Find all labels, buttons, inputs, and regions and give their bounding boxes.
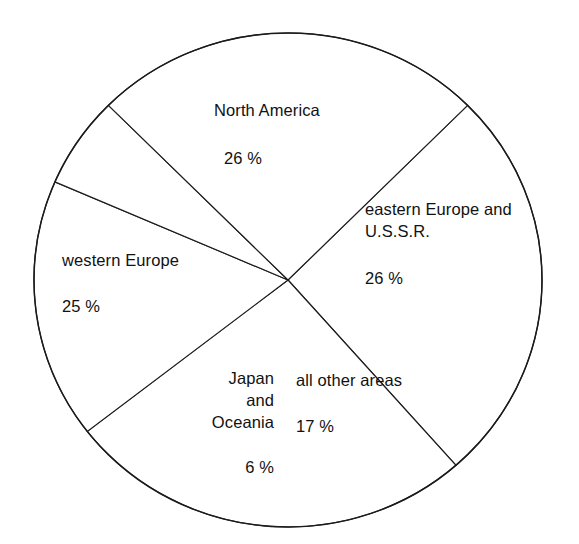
slice-label-japan-and-oceania: Japan and Oceania (186, 368, 274, 433)
slice-label-north-america: North America (214, 100, 320, 122)
slice-label-all-other-areas: all other areas (296, 370, 402, 392)
slice-value-western-europe: 25 % (62, 296, 100, 317)
pie-chart: North America 26 % eastern Europe and U.… (0, 0, 579, 544)
slice-label-western-europe: western Europe (62, 250, 179, 272)
pie-chart-svg (0, 0, 579, 544)
slice-label-eastern-europe-ussr: eastern Europe and U.S.S.R. (365, 199, 512, 243)
slice-value-north-america: 26 % (224, 148, 262, 169)
slice-value-eastern-europe-ussr: 26 % (365, 268, 403, 289)
slice-value-all-other-areas: 17 % (296, 416, 334, 437)
slice-value-japan-and-oceania: 6 % (186, 457, 274, 478)
